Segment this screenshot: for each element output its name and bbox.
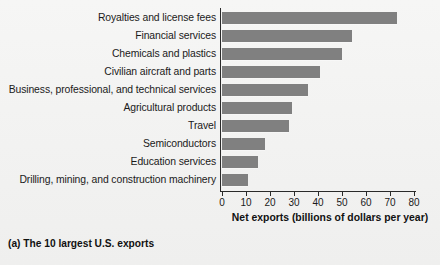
y-axis-line [220,8,221,192]
x-axis-tick-label: 40 [312,197,323,208]
bar-category-label: Drilling, mining, and construction machi… [0,174,216,186]
x-axis-tick-label: 70 [384,197,395,208]
x-axis-tick [246,191,247,196]
bar [222,138,265,150]
x-axis-title: Net exports (billions of dollars per yea… [222,212,438,223]
bar-category-label: Travel [0,120,216,132]
bar [222,84,308,96]
bar [222,102,292,114]
x-axis-tick [390,191,391,196]
bar-category-label: Financial services [0,30,216,42]
x-axis-tick [414,191,415,196]
x-axis-tick [342,191,343,196]
x-axis-tick [366,191,367,196]
x-axis-tick-label: 0 [219,197,225,208]
x-axis-tick-label: 60 [360,197,371,208]
bar [222,12,397,24]
x-axis-tick [294,191,295,196]
bar [222,120,289,132]
bar [222,174,248,186]
x-axis-tick [270,191,271,196]
bar-category-label: Agricultural products [0,102,216,114]
bar-category-label: Royalties and license fees [0,12,216,24]
x-axis-tick-label: 20 [264,197,275,208]
x-axis-tick-label: 50 [336,197,347,208]
figure-caption: (a) The 10 largest U.S. exports [8,238,154,249]
bar [222,156,258,168]
x-axis-tick [318,191,319,196]
bar [222,30,352,42]
bar-category-label: Business, professional, and technical se… [0,84,216,96]
bar [222,66,320,78]
x-axis-tick [222,191,223,196]
x-axis-tick-label: 10 [240,197,251,208]
figure-panel: Royalties and license feesFinancial serv… [0,0,440,265]
bar [222,48,342,60]
x-axis-tick-label: 30 [288,197,299,208]
x-axis-tick-label: 80 [408,197,419,208]
bar-category-label: Education services [0,156,216,168]
bar-category-label: Civilian aircraft and parts [0,66,216,78]
bar-category-label: Semiconductors [0,138,216,150]
bar-category-label: Chemicals and plastics [0,48,216,60]
